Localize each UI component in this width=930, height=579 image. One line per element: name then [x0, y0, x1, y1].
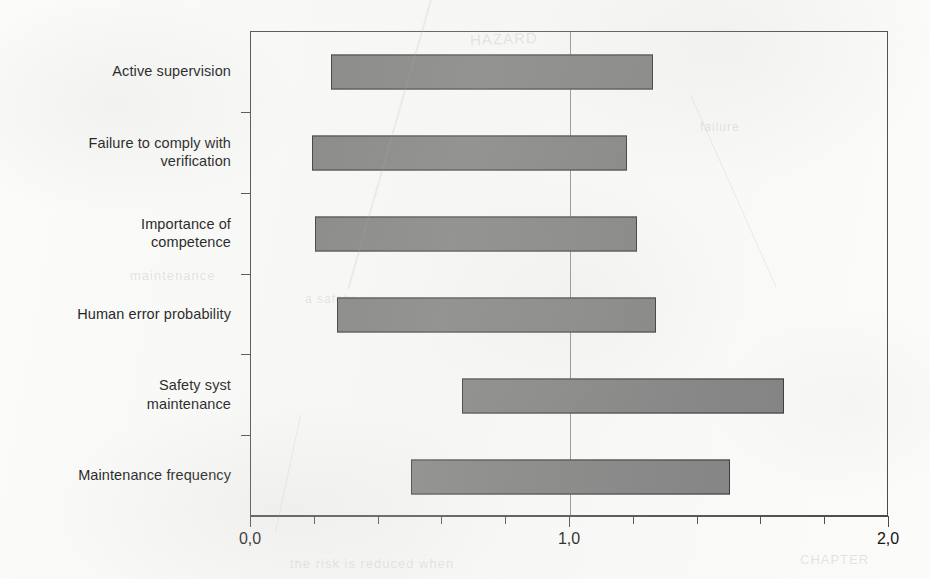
- y-axis-category-label-line: Active supervision: [112, 62, 231, 81]
- range-bar: [315, 217, 637, 252]
- y-axis-category-label: Human error probability: [0, 274, 231, 355]
- range-bar: [411, 459, 730, 494]
- bar-row: [251, 436, 887, 517]
- range-bar: [462, 378, 784, 413]
- y-axis-category-label: Maintenance frequency: [0, 435, 231, 516]
- range-bar: [337, 297, 656, 332]
- x-axis-tick: [633, 516, 634, 524]
- scan-ghost-text: CHAPTER: [800, 552, 869, 567]
- x-axis-tick-label: 0,0: [239, 530, 261, 548]
- y-axis-category-label: Safety systmaintenance: [0, 354, 231, 435]
- y-axis-category-label-line: maintenance: [147, 395, 231, 414]
- range-bar: [331, 55, 653, 90]
- y-axis-category-label-line: competence: [141, 233, 231, 252]
- y-axis-category-label-line: verification: [89, 152, 231, 171]
- y-axis-tick: [241, 435, 250, 436]
- x-axis-tick: [441, 516, 442, 524]
- y-axis-category-label-line: Importance of: [141, 215, 231, 234]
- y-axis-category-label-line: Human error probability: [77, 305, 231, 324]
- y-axis-category-labels: Active supervisionFailure to comply with…: [0, 31, 241, 516]
- y-axis-category-label: Importance ofcompetence: [0, 193, 231, 274]
- chart-figure: HAZARDmaintenancea safetyfailurethe risk…: [0, 0, 930, 579]
- y-axis-category-label-line: Failure to comply with: [89, 134, 231, 153]
- x-axis-tick: [250, 516, 251, 527]
- x-axis-tick: [569, 516, 570, 527]
- y-axis-ticks: [241, 31, 251, 516]
- x-axis-tick: [760, 516, 761, 524]
- x-axis-tick-label: 2,0: [877, 530, 899, 548]
- x-axis-tick: [505, 516, 506, 524]
- y-axis-tick: [241, 112, 250, 113]
- y-axis-category-label: Active supervision: [0, 31, 231, 112]
- x-axis-tick: [888, 516, 889, 527]
- y-axis-category-label-line: Maintenance frequency: [78, 466, 231, 485]
- bar-row: [251, 355, 887, 436]
- y-axis-tick: [241, 193, 250, 194]
- y-axis-category-label-line: Safety syst: [147, 376, 231, 395]
- y-axis-tick: [241, 354, 250, 355]
- x-axis-tick: [824, 516, 825, 524]
- y-axis-tick: [241, 274, 250, 275]
- bar-row: [251, 32, 887, 113]
- bar-row: [251, 194, 887, 275]
- x-axis-tick: [378, 516, 379, 524]
- range-bar: [312, 136, 628, 171]
- y-axis-category-label: Failure to comply withverification: [0, 112, 231, 193]
- x-axis-tick: [314, 516, 315, 524]
- x-axis-tick-label: 1,0: [558, 530, 580, 548]
- plot-area: [250, 31, 888, 516]
- bar-row: [251, 113, 887, 194]
- scan-ghost-text: the risk is reduced when: [290, 556, 454, 571]
- x-axis-tick: [697, 516, 698, 524]
- bar-row: [251, 275, 887, 356]
